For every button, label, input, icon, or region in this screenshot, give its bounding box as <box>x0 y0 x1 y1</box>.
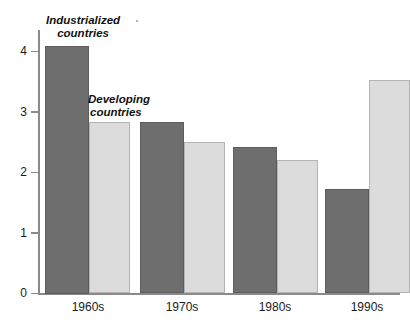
bar-developing-1960s <box>89 122 130 293</box>
y-tick-label-3: 3 <box>0 106 27 118</box>
x-tick-label-1960s: 1960s <box>48 300 128 314</box>
bar-industrialized-1980s <box>233 147 277 293</box>
y-tick-label-4: 4 <box>0 45 27 57</box>
x-tick-label-1990s: 1990s <box>327 300 407 314</box>
bar-industrialized-1990s <box>325 189 369 294</box>
y-tick-mark-3 <box>31 111 38 113</box>
y-tick-mark-2 <box>31 172 38 174</box>
y-tick-mark-0 <box>31 293 38 295</box>
legend-label-industrialized: Industrialized countries <box>46 14 120 39</box>
legend-label-industrialized-line1: Industrialized <box>46 14 120 26</box>
legend-label-developing: Developing countries <box>88 93 150 118</box>
y-axis-line <box>38 30 40 294</box>
legend-label-developing-line2: countries <box>88 106 150 119</box>
y-tick-label-0: 0 <box>0 287 27 299</box>
bar-industrialized-1970s <box>140 122 184 293</box>
y-tick-label-2: 2 <box>0 166 27 178</box>
y-tick-label-1: 1 <box>0 227 27 239</box>
bar-developing-1990s <box>369 80 410 294</box>
bar-developing-1980s <box>277 160 318 294</box>
y-tick-mark-4 <box>31 51 38 53</box>
legend-label-industrialized-line2: countries <box>46 27 120 40</box>
bar-industrialized-1960s <box>45 46 89 294</box>
x-tick-label-1970s: 1970s <box>142 300 222 314</box>
y-tick-mark-1 <box>31 232 38 234</box>
scan-artifact-dot <box>136 20 138 22</box>
bar-developing-1970s <box>184 142 225 293</box>
legend-label-developing-line1: Developing <box>88 93 150 105</box>
x-tick-label-1980s: 1980s <box>235 300 315 314</box>
